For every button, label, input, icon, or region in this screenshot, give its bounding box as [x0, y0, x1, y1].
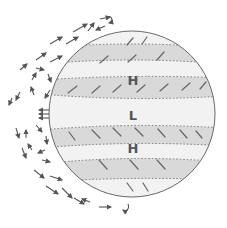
circulation-diagram: H L H: [0, 0, 227, 228]
low-pressure-label-equator: L: [129, 108, 137, 123]
high-pressure-label-south: H: [128, 141, 139, 156]
planet: H L H: [40, 31, 224, 197]
high-pressure-label-north: H: [128, 73, 139, 88]
